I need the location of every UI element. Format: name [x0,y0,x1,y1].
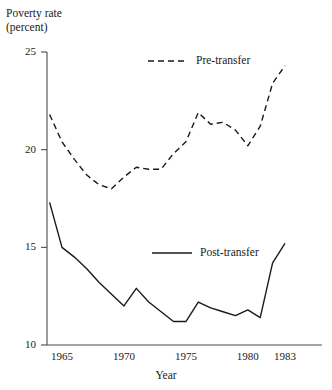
x-axis-tick-label: 1980 [228,350,268,362]
plot-area [0,0,332,390]
series-line-pre-transfer [50,66,285,189]
x-axis-title: Year [0,368,332,382]
axes [47,52,322,345]
y-axis-tick-marks [41,52,47,345]
x-axis-tick-label: 1983 [265,350,305,362]
y-axis-tick-label: 20 [10,143,36,155]
legend-label-pre-transfer: Pre-transfer [196,54,250,66]
y-axis-tick-label: 10 [10,338,36,350]
series-line-post-transfer [50,202,285,321]
poverty-rate-line-chart: Poverty rate (percent) 10152025 19651970… [0,0,332,390]
y-axis-tick-label: 25 [10,45,36,57]
legend-label-post-transfer: Post-transfer [200,246,259,258]
x-axis-tick-label: 1975 [166,350,206,362]
data-series-group [50,66,285,322]
y-axis-tick-label: 15 [10,240,36,252]
x-axis-tick-label: 1970 [104,350,144,362]
x-axis-tick-label: 1965 [42,350,82,362]
